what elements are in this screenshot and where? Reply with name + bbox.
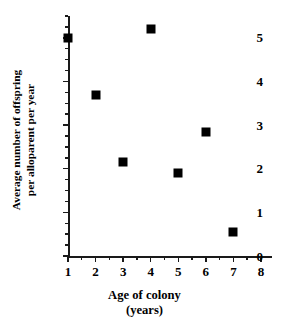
- y-tick-minor: [65, 135, 68, 136]
- y-tick-major: [63, 168, 68, 169]
- y-tick-minor: [65, 233, 68, 234]
- y-tick-minor: [65, 92, 68, 93]
- x-tick-major: [95, 257, 96, 262]
- data-point: [229, 228, 238, 237]
- data-point: [119, 158, 128, 167]
- x-tick-label: 3: [112, 265, 134, 278]
- y-axis-line: [68, 16, 70, 256]
- x-tick-label: 8: [250, 265, 272, 278]
- x-axis-title: Age of colony (years): [0, 288, 289, 317]
- x-axis-title-line-2: (years): [0, 303, 289, 318]
- x-tick-minor: [219, 257, 220, 260]
- y-tick-label: 5: [241, 31, 263, 44]
- y-tick-label: 2: [241, 162, 263, 175]
- y-axis-title: Average number of offspring per allopare…: [6, 18, 40, 262]
- x-tick-minor: [81, 257, 82, 260]
- y-axis-title-line-2: per alloparent per year: [23, 70, 37, 210]
- data-point: [201, 127, 210, 136]
- y-axis-title-text: Average number of offspring per allopare…: [10, 70, 37, 210]
- plot-area: 012345 12345678: [68, 16, 272, 256]
- x-tick-major: [150, 257, 151, 262]
- x-tick-major: [67, 257, 68, 262]
- x-tick-label: 2: [85, 265, 107, 278]
- y-tick-label: 0: [241, 250, 263, 263]
- x-tick-label: 1: [57, 265, 79, 278]
- y-tick-label: 3: [241, 119, 263, 132]
- y-tick-major: [63, 212, 68, 213]
- data-point: [146, 25, 155, 34]
- x-tick-major: [122, 257, 123, 262]
- data-point: [64, 33, 73, 42]
- y-tick-minor: [65, 15, 68, 16]
- scatter-chart-figure: Average number of offspring per allopare…: [0, 0, 289, 324]
- y-tick-minor: [65, 157, 68, 158]
- x-tick-label: 5: [167, 265, 189, 278]
- y-axis-title-line-1: Average number of offspring: [10, 70, 24, 210]
- y-tick-major: [63, 124, 68, 125]
- x-tick-minor: [164, 257, 165, 260]
- y-tick-minor: [65, 244, 68, 245]
- y-tick-minor: [65, 26, 68, 27]
- y-tick-minor: [65, 223, 68, 224]
- x-tick-major: [178, 257, 179, 262]
- y-tick-major: [63, 81, 68, 82]
- y-tick-minor: [65, 179, 68, 180]
- y-tick-minor: [65, 70, 68, 71]
- x-tick-label: 6: [195, 265, 217, 278]
- y-tick-minor: [65, 48, 68, 49]
- y-tick-minor: [65, 59, 68, 60]
- x-tick-label: 7: [222, 265, 244, 278]
- data-point: [174, 169, 183, 178]
- y-tick-minor: [65, 146, 68, 147]
- y-tick-minor: [65, 113, 68, 114]
- x-tick-major: [233, 257, 234, 262]
- x-tick-label: 4: [140, 265, 162, 278]
- data-point: [91, 90, 100, 99]
- y-tick-minor: [65, 201, 68, 202]
- x-tick-minor: [136, 257, 137, 260]
- x-axis-title-line-1: Age of colony: [0, 288, 289, 303]
- x-tick-minor: [109, 257, 110, 260]
- x-tick-major: [205, 257, 206, 262]
- y-tick-label: 1: [241, 206, 263, 219]
- y-tick-minor: [65, 190, 68, 191]
- y-tick-label: 4: [241, 75, 263, 88]
- x-tick-minor: [191, 257, 192, 260]
- y-tick-minor: [65, 103, 68, 104]
